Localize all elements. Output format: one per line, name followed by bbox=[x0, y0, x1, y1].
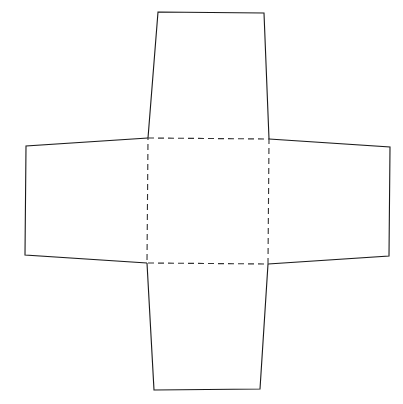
bottom-flap bbox=[147, 263, 268, 390]
left-flap bbox=[25, 138, 148, 263]
top-flap bbox=[148, 12, 269, 139]
net-diagram bbox=[0, 0, 403, 404]
base-square-fold-lines bbox=[147, 138, 269, 264]
right-flap bbox=[268, 139, 390, 264]
